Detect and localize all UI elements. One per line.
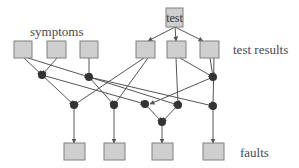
junction-dot	[141, 100, 149, 108]
edge-arrow	[89, 77, 213, 106]
symptom-node	[47, 41, 66, 58]
edge-arrow	[148, 27, 175, 41]
edge-arrow	[114, 58, 148, 105]
junction-dot	[110, 101, 118, 109]
symptom-node	[14, 41, 32, 58]
edge-arrow	[74, 58, 144, 105]
edge-arrow	[28, 58, 89, 77]
fault-node	[152, 143, 173, 160]
edge-arrow	[213, 58, 214, 106]
faults-label: faults	[240, 146, 269, 159]
symptoms-label: symptoms	[30, 25, 83, 38]
symptom-node	[80, 41, 98, 58]
edge-arrow	[150, 77, 213, 104]
fault-node	[104, 143, 125, 160]
junction-dot	[209, 102, 217, 110]
junction-dot	[158, 118, 166, 126]
junction-dot	[174, 101, 182, 109]
junction-dot	[70, 101, 78, 109]
edge-arrow	[180, 58, 213, 77]
test-result-node	[136, 41, 155, 58]
junction-dot	[38, 71, 46, 79]
junctions-group	[38, 71, 217, 126]
test-node-label: test	[166, 11, 183, 25]
junction-dot	[85, 73, 93, 81]
junction-dot	[209, 73, 217, 81]
edge-arrow	[175, 27, 203, 41]
test-results-label: test results	[233, 43, 288, 56]
edge-arrow	[175, 27, 176, 41]
test-result-node	[200, 41, 219, 58]
test-result-node	[167, 41, 186, 58]
fault-node	[64, 143, 85, 160]
fault-node	[203, 143, 224, 160]
